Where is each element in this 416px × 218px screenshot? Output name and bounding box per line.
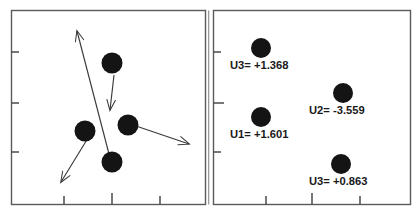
label-u3-bottom: U3= +0.863: [309, 175, 367, 187]
data-point-u1: [251, 107, 271, 127]
left-panel-plot: [0, 0, 208, 218]
right-panel-plot: U3= +1.368 U2= -3.559 U1= +1.601 U3= +0.…: [208, 0, 416, 218]
label-u1: U1= +1.601: [230, 128, 288, 140]
data-point-u3-top: [251, 38, 271, 58]
data-point: [102, 152, 123, 173]
label-u3-top: U3= +1.368: [230, 59, 288, 71]
left-panel-frame: [12, 11, 206, 205]
right-panel: U3= +1.368 U2= -3.559 U1= +1.601 U3= +0.…: [208, 0, 416, 218]
data-point: [118, 115, 139, 136]
label-u2: U2= -3.559: [309, 104, 365, 116]
data-point-u3-bottom: [331, 154, 351, 174]
data-point-u2: [333, 83, 353, 103]
left-panel: [0, 0, 208, 218]
data-point: [102, 53, 123, 74]
figure-container: U3= +1.368 U2= -3.559 U1= +1.601 U3= +0.…: [0, 0, 416, 218]
data-point: [75, 121, 96, 142]
